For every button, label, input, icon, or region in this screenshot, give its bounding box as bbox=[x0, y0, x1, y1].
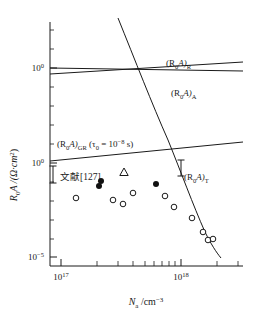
open-circle-6 bbox=[171, 204, 177, 210]
open-circle-10 bbox=[210, 236, 216, 242]
chart-svg: 100 100 10−5 1017 1018 R0A /(Ω·cm2) Na /… bbox=[0, 0, 260, 323]
reference-legend-text: 文献[127] bbox=[60, 171, 101, 182]
open-circle-8 bbox=[200, 229, 206, 235]
open-circle-2 bbox=[110, 197, 116, 203]
open-circle-4 bbox=[130, 190, 136, 196]
open-circle-5 bbox=[162, 193, 168, 199]
open-circle-1 bbox=[73, 195, 79, 201]
open-circle-7 bbox=[189, 215, 195, 221]
filled-circle-2 bbox=[98, 178, 104, 184]
open-circle-3 bbox=[120, 201, 126, 207]
filled-circle-3 bbox=[153, 181, 159, 187]
figure-container: 100 100 10−5 1017 1018 R0A /(Ω·cm2) Na /… bbox=[0, 0, 260, 323]
